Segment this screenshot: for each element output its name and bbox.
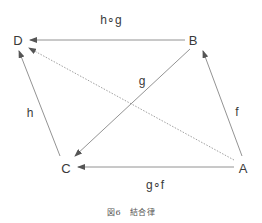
edge-hgf-dotted-arrow [29, 48, 234, 160]
node-c: C [61, 162, 70, 175]
associativity-diagram [0, 0, 262, 223]
edge-g-arrow [75, 49, 190, 156]
node-d: D [13, 34, 22, 47]
edge-h-arrow [19, 51, 60, 156]
edge-label-h: h [27, 107, 34, 119]
edge-label-g: g [139, 75, 146, 87]
node-a: A [239, 162, 248, 175]
edge-f-arrow [203, 51, 242, 156]
edge-label-hg: h∘g [100, 14, 121, 26]
edge-label-gf: g∘f [146, 179, 164, 191]
figure-caption: 図6 結合律 [107, 206, 155, 217]
node-b: B [189, 34, 198, 47]
edge-label-f: f [235, 106, 238, 118]
